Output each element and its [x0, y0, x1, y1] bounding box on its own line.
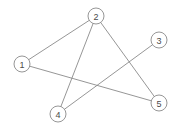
- graph-node-3[interactable]: 3: [151, 32, 167, 48]
- graph-diagram: 12345: [0, 0, 180, 131]
- graph-edge-1-5: [30, 66, 152, 101]
- graph-node-1[interactable]: 1: [14, 56, 30, 72]
- graph-node-5[interactable]: 5: [151, 95, 167, 111]
- node-label-4: 4: [55, 110, 60, 120]
- node-label-2: 2: [93, 12, 98, 22]
- node-label-1: 1: [19, 60, 24, 70]
- node-layer: 12345: [14, 8, 167, 122]
- graph-edge-2-5: [101, 22, 155, 96]
- node-label-3: 3: [156, 36, 161, 46]
- node-label-5: 5: [156, 99, 161, 109]
- graph-node-4[interactable]: 4: [50, 106, 66, 122]
- graph-canvas: 12345: [0, 0, 180, 131]
- edge-layer: [29, 20, 155, 109]
- graph-edge-1-2: [29, 20, 90, 59]
- graph-node-2[interactable]: 2: [88, 8, 104, 24]
- graph-edge-3-4: [64, 45, 152, 110]
